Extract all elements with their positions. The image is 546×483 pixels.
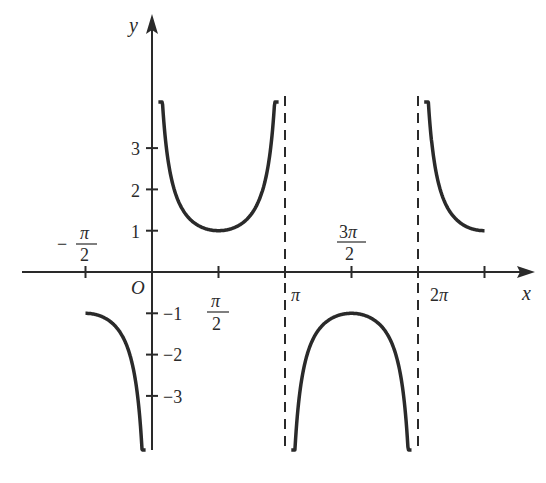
origin-label: O (131, 277, 145, 298)
svg-text:2: 2 (345, 244, 354, 264)
x-tick-label-neg-pi-over-2: − π 2 (57, 223, 97, 265)
x-tick-label-pi: π (291, 285, 301, 305)
y-tick-label-3: 3 (131, 139, 140, 159)
svg-text:π: π (80, 223, 90, 243)
x-tick-label-3pi-over-2: 3π 2 (337, 222, 366, 264)
svg-text:3π: 3π (339, 222, 358, 242)
y-tick-label-1: 1 (131, 222, 140, 242)
svg-text:2: 2 (80, 245, 89, 265)
y-tick-label-neg3: −3 (163, 387, 182, 407)
svg-text:−: − (57, 234, 67, 254)
y-axis (146, 14, 158, 450)
y-tick-label-2: 2 (131, 181, 140, 201)
svg-text:2: 2 (212, 314, 221, 334)
y-tick-label-neg2: −2 (163, 345, 182, 365)
x-tick-label-pi-over-2: π 2 (207, 291, 229, 334)
y-axis-label: y (127, 14, 138, 37)
x-axis (22, 266, 535, 278)
svg-text:2π: 2π (430, 285, 449, 305)
svg-text:π: π (211, 291, 221, 311)
x-axis-label: x (521, 282, 531, 304)
x-tick-label-2pi: 2π (430, 285, 449, 305)
csc-graph: y x O 3 2 1 −1 −2 −3 − π 2 π 2 π 3π 2 2π (0, 0, 546, 483)
y-tick-label-neg1: −1 (163, 304, 182, 324)
